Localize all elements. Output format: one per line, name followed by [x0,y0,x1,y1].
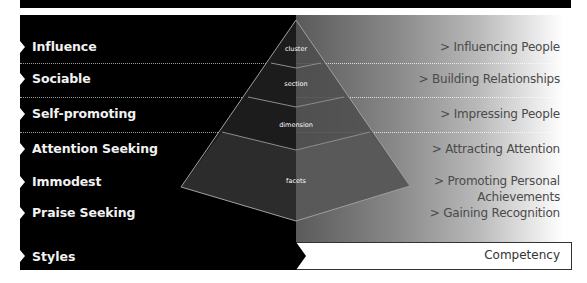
style-label-praise-seeking: Praise Seeking [32,205,135,221]
notch-arrow-icon [20,41,25,53]
notch-arrow-icon [20,73,25,85]
competency-label-attracting-attention: > Attracting Attention [432,142,560,156]
style-label-self-promoting: Self-promoting [32,106,136,122]
pyramid-level-label: section [284,80,307,88]
top-bar [20,0,571,8]
styles-header: Styles [32,249,75,265]
pyramid-level-label: cluster [285,45,307,53]
style-label-immodest: Immodest [32,174,101,190]
row-separator [20,63,296,64]
competency-label-promoting-personal: > Promoting Personal [434,174,560,188]
competency-label-building-relationships: > Building Relationships [419,72,560,86]
row-separator [296,97,587,98]
style-label-attention-seeking: Attention Seeking [32,141,158,157]
pyramid-level-label: facets [286,177,306,185]
competency-label-achievements: Achievements [477,190,560,204]
style-label-sociable: Sociable [32,71,91,87]
competency-header: Competency [484,248,560,262]
notch-arrow-icon [20,250,25,262]
notch-arrow-icon [20,176,25,188]
competency-label-influencing-people: > Influencing People [440,40,560,54]
competency-label-gaining-recognition: > Gaining Recognition [430,206,560,220]
notch-arrow-icon [20,207,25,219]
notch-arrow-icon [20,108,25,120]
row-separator [296,63,587,64]
row-separator [296,132,587,133]
pyramid-level-label: dimension [279,121,313,129]
row-separator [20,132,296,133]
competency-label-impressing-people: > Impressing People [440,107,560,121]
row-separator [20,97,296,98]
notch-arrow-icon [20,143,25,155]
style-label-influence: Influence [32,39,97,55]
